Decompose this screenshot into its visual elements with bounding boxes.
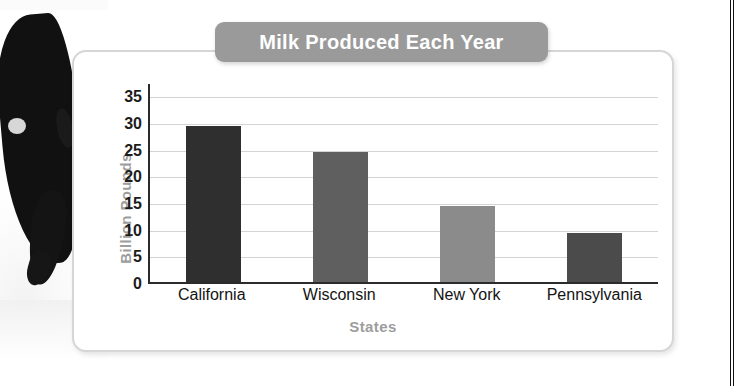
chart-title: Milk Produced Each Year bbox=[259, 31, 503, 54]
page-edge-rule bbox=[730, 0, 734, 386]
chart-title-banner: Milk Produced Each Year bbox=[215, 22, 548, 62]
bar-new-york[interactable] bbox=[440, 206, 495, 282]
y-tick-label: 10 bbox=[104, 223, 142, 239]
x-tick-label: Pennsylvania bbox=[531, 286, 659, 304]
cow-highlight bbox=[8, 118, 26, 134]
chart-card: Billion Pounds 05101520253035 California… bbox=[72, 50, 674, 352]
bar-pennsylvania[interactable] bbox=[567, 233, 622, 282]
bar-slot bbox=[531, 82, 658, 282]
y-tick-label: 0 bbox=[104, 276, 142, 292]
x-axis-tick-labels: CaliforniaWisconsinNew YorkPennsylvania bbox=[148, 286, 658, 304]
y-tick-label: 15 bbox=[104, 196, 142, 212]
y-tick-label: 35 bbox=[104, 89, 142, 105]
plot-area bbox=[148, 84, 658, 284]
chart-page: Billion Pounds 05101520253035 California… bbox=[0, 0, 734, 386]
y-tick-label: 30 bbox=[104, 116, 142, 132]
x-axis-title: States bbox=[74, 318, 672, 335]
y-tick-label: 25 bbox=[104, 143, 142, 159]
x-tick-label: New York bbox=[403, 286, 531, 304]
y-axis-tick-labels: 05101520253035 bbox=[104, 84, 142, 284]
x-tick-label: California bbox=[148, 286, 276, 304]
bar-slot bbox=[404, 82, 531, 282]
bar-slot bbox=[150, 82, 277, 282]
bar-slot bbox=[277, 82, 404, 282]
x-tick-label: Wisconsin bbox=[276, 286, 404, 304]
bar-wisconsin[interactable] bbox=[313, 152, 368, 282]
y-tick-label: 20 bbox=[104, 169, 142, 185]
y-tick-label: 5 bbox=[104, 249, 142, 265]
bar-series bbox=[150, 82, 658, 282]
bar-california[interactable] bbox=[186, 126, 241, 282]
